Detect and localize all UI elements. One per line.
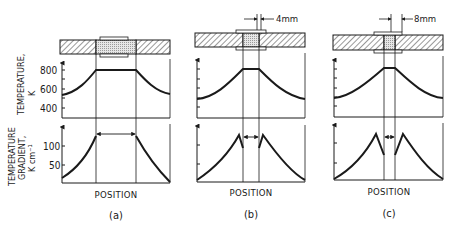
temperature-label-line1: TEMPERATURE, (16, 54, 26, 116)
gradient-axis-label: TEMPERATURE GRADIENT, K cm⁻¹ (7, 127, 37, 187)
panel-label-b: (b) (244, 208, 258, 221)
panel-c: 8mm POSITION (c) (333, 13, 443, 220)
gradient-label-line3: K cm⁻¹ (27, 144, 37, 172)
specimen-bar-c (333, 32, 443, 53)
gradient-plot-a (62, 124, 170, 183)
tick-100: 100 (43, 141, 60, 152)
panel-label-a: (a) (109, 209, 123, 222)
x-axis-label-c: POSITION (367, 186, 410, 197)
panel-b: 4mm POSITION (b) (195, 13, 305, 221)
x-axis-label-b: POSITION (229, 187, 272, 198)
temperature-plot-c (334, 56, 443, 117)
specimen-bar-b (195, 30, 305, 50)
panel-a: POSITION (a) (60, 37, 170, 222)
gradient-plot-b (197, 125, 305, 182)
specimen-bar-a (60, 37, 170, 57)
gap-dimension-c: 8mm (379, 13, 436, 32)
tick-600: 600 (40, 84, 57, 95)
gradient-label-line1: TEMPERATURE (7, 127, 17, 187)
gap-dimension-b: 4mm (244, 13, 298, 30)
x-axis-label-a: POSITION (94, 189, 137, 200)
tick-400: 400 (40, 103, 57, 114)
temperature-label-line2: K (27, 90, 37, 96)
tick-50: 50 (49, 160, 61, 171)
gap-label-c: 8mm (414, 13, 436, 24)
panel-label-c: (c) (382, 207, 395, 220)
figure-canvas: TEMPERATURE, K TEMPERATURE GRADIENT, K c… (0, 0, 452, 230)
gradient-plot-c (334, 123, 443, 180)
tick-800: 800 (40, 65, 57, 76)
gradient-label-line2: GRADIENT, (17, 136, 27, 180)
temperature-axis-label: TEMPERATURE, K (16, 54, 37, 116)
gap-label-b: 4mm (276, 13, 298, 24)
temperature-plot-a (62, 59, 170, 118)
temperature-plot-b (197, 53, 305, 118)
